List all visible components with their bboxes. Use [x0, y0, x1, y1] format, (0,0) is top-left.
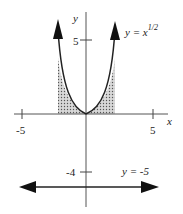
tick-label-y-neg4: -4 [66, 166, 76, 178]
y-axis-label: y [72, 12, 78, 24]
arrow-left-icon [19, 181, 36, 193]
line-label: y = -5 [121, 165, 149, 177]
curve-label: y = x1/2 [124, 23, 158, 38]
arrow-right-icon [141, 181, 159, 193]
x-axis-label: x [166, 115, 172, 127]
arrow-up-left-icon [53, 19, 63, 39]
curve-label-exponent: 1/2 [148, 23, 158, 32]
graph: y x -5 5 5 -4 y = x1/2 y = -5 [0, 0, 183, 214]
tick-label-x-pos5: 5 [150, 124, 156, 136]
arrow-up-right-icon [110, 21, 120, 40]
tick-label-x-neg5: -5 [16, 124, 26, 136]
tick-label-y-5: 5 [73, 35, 79, 47]
